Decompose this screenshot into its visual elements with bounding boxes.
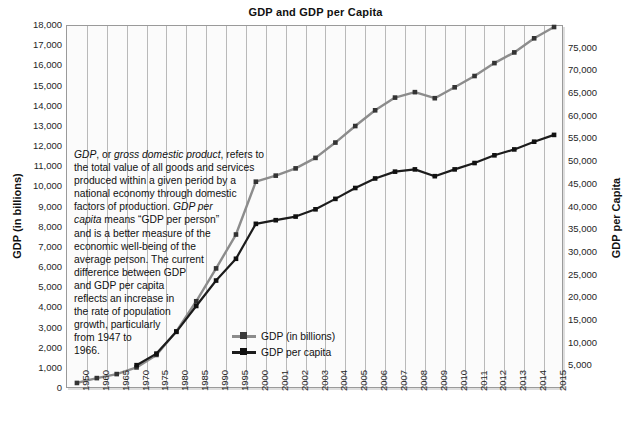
data-point-marker[interactable] xyxy=(532,139,537,144)
y-axis-right-tick-label: 75,000 xyxy=(568,42,628,53)
data-point-marker[interactable] xyxy=(452,167,457,172)
data-point-marker[interactable] xyxy=(432,174,437,179)
y-axis-left-tick-label: 9,000 xyxy=(2,201,62,212)
y-axis-right-tick-label: 40,000 xyxy=(568,201,628,212)
data-point-marker[interactable] xyxy=(95,376,100,381)
y-axis-right-tick-label: 65,000 xyxy=(568,87,628,98)
x-axis-tick-label: 2013 xyxy=(517,370,528,391)
data-point-marker[interactable] xyxy=(512,147,517,152)
annotation-line: the total value of all goods and service… xyxy=(74,161,290,174)
legend-label-gdp: GDP (in billions) xyxy=(261,331,335,342)
annotation-textbox: GDP, or gross domestic product, refers t… xyxy=(74,148,290,358)
legend-item[interactable]: GDP (in billions) xyxy=(232,328,335,344)
x-axis-tick-label: 1990 xyxy=(219,370,230,391)
chart-title: GDP and GDP per Capita xyxy=(0,6,631,18)
data-point-marker[interactable] xyxy=(532,36,537,41)
x-axis-tick-label: 1975 xyxy=(159,370,170,391)
annotation-line: factors of production. GDP per xyxy=(74,200,290,213)
y-axis-left-tick-label: 7,000 xyxy=(2,241,62,252)
data-point-marker[interactable] xyxy=(512,50,517,55)
data-point-marker[interactable] xyxy=(313,156,318,161)
data-point-marker[interactable] xyxy=(353,186,358,191)
x-axis-tick-label: 2008 xyxy=(418,370,429,391)
y-axis-left-tick-label: 12,000 xyxy=(2,140,62,151)
data-point-marker[interactable] xyxy=(293,214,298,219)
y-axis-left-tick-label: 14,000 xyxy=(2,100,62,111)
data-point-marker[interactable] xyxy=(333,197,338,202)
annotation-line: national economy through domestic xyxy=(74,187,290,200)
data-point-marker[interactable] xyxy=(313,207,318,212)
data-point-marker[interactable] xyxy=(75,381,80,386)
data-point-marker[interactable] xyxy=(393,169,398,174)
y-axis-left-tick-label: 1,000 xyxy=(2,362,62,373)
x-axis-tick-label: 2002 xyxy=(299,370,310,391)
x-axis-tick-label: 2003 xyxy=(319,370,330,391)
y-axis-right-tick-label: 15,000 xyxy=(568,314,628,325)
annotation-line: the rate of population xyxy=(74,305,290,318)
x-axis-tick-label: 2007 xyxy=(398,370,409,391)
y-axis-left-tick-label: 8,000 xyxy=(2,221,62,232)
x-axis-tick-label: 1995 xyxy=(239,370,250,391)
x-axis-tick-label: 1980 xyxy=(179,370,190,391)
y-axis-left-tick-label: 18,000 xyxy=(2,19,62,30)
y-axis-right-tick-label: 70,000 xyxy=(568,64,628,75)
y-axis-right-tick-label: 50,000 xyxy=(568,155,628,166)
y-axis-right-tick-label: 35,000 xyxy=(568,223,628,234)
data-point-marker[interactable] xyxy=(472,74,477,79)
y-axis-right-tick-label: 45,000 xyxy=(568,178,628,189)
y-axis-right-tick-label: 10,000 xyxy=(568,337,628,348)
x-axis-tick-label: 2011 xyxy=(478,371,489,391)
y-axis-right-tick-label: 60,000 xyxy=(568,110,628,121)
data-point-marker[interactable] xyxy=(452,85,457,90)
data-point-marker[interactable] xyxy=(552,25,557,30)
x-axis-tick-label: 2001 xyxy=(279,370,290,391)
y-axis-left-tick-label: 2,000 xyxy=(2,342,62,353)
data-point-marker[interactable] xyxy=(114,372,119,377)
y-axis-left-tick-label: 4,000 xyxy=(2,301,62,312)
data-point-marker[interactable] xyxy=(353,124,358,129)
y-axis-left-tick-label: 6,000 xyxy=(2,261,62,272)
annotation-line: capita means “GDP per person” xyxy=(74,213,290,226)
annotation-line: reflects an increase in xyxy=(74,292,290,305)
y-axis-left-tick-label: 16,000 xyxy=(2,59,62,70)
data-point-marker[interactable] xyxy=(492,153,497,158)
y-axis-left-tick-label: 3,000 xyxy=(2,322,62,333)
x-axis-tick-label: 2010 xyxy=(458,370,469,391)
y-axis-right-tick-label: 30,000 xyxy=(568,246,628,257)
x-axis-tick-label: 1950 xyxy=(80,370,91,391)
y-axis-right-tick-label: 55,000 xyxy=(568,132,628,143)
data-point-marker[interactable] xyxy=(432,96,437,101)
x-axis-tick-label: 2004 xyxy=(338,370,349,391)
data-point-marker[interactable] xyxy=(333,140,338,145)
legend-item[interactable]: GDP per capita xyxy=(232,344,335,360)
data-point-marker[interactable] xyxy=(373,108,378,113)
x-axis-tick-label: 1965 xyxy=(120,370,131,391)
y-axis-left-tick-label: 11,000 xyxy=(2,160,62,171)
data-point-marker[interactable] xyxy=(413,167,418,172)
legend-swatch-gdp xyxy=(232,331,256,341)
data-point-marker[interactable] xyxy=(393,95,398,100)
data-point-marker[interactable] xyxy=(492,61,497,66)
y-axis-left-tick-label: 5,000 xyxy=(2,281,62,292)
legend-swatch-gdp-per-capita xyxy=(232,347,256,357)
x-axis-tick-label: 2014 xyxy=(537,370,548,391)
annotation-line: produced within a given period by a xyxy=(74,174,290,187)
x-axis-tick-label: 2006 xyxy=(378,370,389,391)
y-axis-left-tick-label: 13,000 xyxy=(2,120,62,131)
data-point-marker[interactable] xyxy=(552,133,557,138)
data-point-marker[interactable] xyxy=(472,161,477,166)
annotation-line: economic well-being of the xyxy=(74,240,290,253)
chart-legend: GDP (in billions) GDP per capita xyxy=(232,328,335,360)
y-axis-right-tick-label: 25,000 xyxy=(568,269,628,280)
data-point-marker[interactable] xyxy=(373,176,378,181)
y-axis-left-tick-label: 10,000 xyxy=(2,180,62,191)
data-point-marker[interactable] xyxy=(293,166,298,171)
data-point-marker[interactable] xyxy=(134,363,139,368)
x-axis-tick-label: 2012 xyxy=(497,370,508,391)
y-axis-left-tick-label: 0 xyxy=(2,382,62,393)
x-axis-tick-label: 1985 xyxy=(199,370,210,391)
x-axis-tick-label: 2000 xyxy=(259,370,270,391)
legend-label-gdp-per-capita: GDP per capita xyxy=(261,347,331,358)
data-point-marker[interactable] xyxy=(413,90,418,95)
annotation-line: and GDP per capita xyxy=(74,279,290,292)
